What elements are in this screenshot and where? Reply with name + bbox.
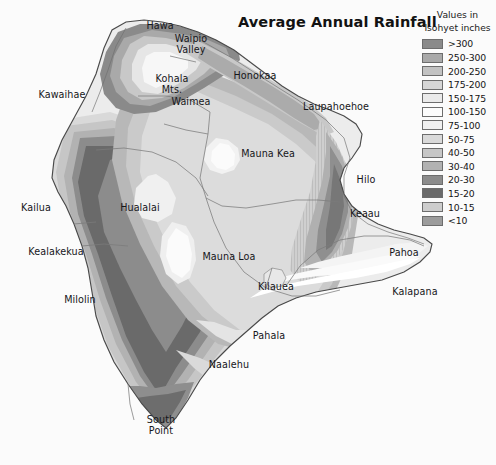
place-label-pahoa: Pahoa xyxy=(389,248,419,259)
place-label-mauna-loa: Mauna Loa xyxy=(202,252,255,263)
legend-swatch xyxy=(422,175,443,185)
legend-row: 100-150 xyxy=(419,105,496,119)
legend-swatch xyxy=(422,161,443,171)
legend-row: >300 xyxy=(419,37,496,51)
legend-swatch xyxy=(422,39,443,49)
place-label-kalapana: Kalapana xyxy=(392,287,437,298)
legend-swatch xyxy=(422,120,443,130)
place-label-line: Mts. xyxy=(156,85,189,96)
place-label-line: Honokaa xyxy=(234,71,277,82)
legend-label: 10-15 xyxy=(448,202,475,213)
legend-label: 175-200 xyxy=(448,79,486,90)
legend-swatch xyxy=(422,134,443,144)
legend-label: 50-75 xyxy=(448,134,475,145)
place-label-kawaihae: Kawaihae xyxy=(38,90,85,101)
place-label-keaau: Keaau xyxy=(350,209,380,220)
legend-swatch xyxy=(422,148,443,158)
place-label-hilo: Hilo xyxy=(357,175,376,186)
legend-title: Values in Isohyet inches xyxy=(419,8,496,34)
place-label-line: Kawaihae xyxy=(38,90,85,101)
legend-swatch xyxy=(422,188,443,198)
legend-label: 200-250 xyxy=(448,66,486,77)
legend-swatch xyxy=(422,216,443,226)
legend-row: 250-300 xyxy=(419,51,496,65)
place-label-line: Valley xyxy=(175,45,208,56)
legend-label: 20-30 xyxy=(448,174,475,185)
legend-row: 20-30 xyxy=(419,173,496,187)
legend-label: 100-150 xyxy=(448,106,486,117)
place-label-line: Milolin xyxy=(64,295,96,306)
legend-row: 40-50 xyxy=(419,146,496,160)
legend-swatch xyxy=(422,66,443,76)
rainfall-map: Average Annual Rainfall HawaWaipioValley… xyxy=(0,0,496,465)
place-label-kealakekua: Kealakekua xyxy=(28,247,83,258)
legend-label: 40-50 xyxy=(448,147,475,158)
place-label-laupahoehoe: Laupahoehoe xyxy=(303,102,369,113)
place-label-line: Hawa xyxy=(146,21,173,32)
legend-swatch xyxy=(422,53,443,63)
legend-row: 50-75 xyxy=(419,132,496,146)
legend: Values in Isohyet inches >300250-300200-… xyxy=(419,8,496,227)
place-label-south-point: SouthPoint xyxy=(147,415,175,437)
place-label-line: Point xyxy=(147,426,175,437)
place-label-honokaa: Honokaa xyxy=(234,71,277,82)
legend-row: 15-20 xyxy=(419,187,496,201)
legend-title-line-2: Isohyet inches xyxy=(419,21,496,34)
place-label-mauna-kea: Mauna Kea xyxy=(241,149,295,160)
place-label-line: Naalehu xyxy=(209,360,249,371)
place-label-waimea: Waimea xyxy=(171,97,210,108)
legend-label: >300 xyxy=(448,38,473,49)
legend-swatch xyxy=(422,93,443,103)
legend-label: <10 xyxy=(448,215,467,226)
legend-row: 10-15 xyxy=(419,200,496,214)
legend-swatch xyxy=(422,80,443,90)
legend-swatch xyxy=(422,202,443,212)
place-label-line: Waimea xyxy=(171,97,210,108)
legend-label: 150-175 xyxy=(448,93,486,104)
legend-row: <10 xyxy=(419,214,496,228)
page-title: Average Annual Rainfall xyxy=(238,14,418,30)
place-label-line: Pahala xyxy=(253,331,285,342)
place-label-line: Mauna Kea xyxy=(241,149,295,160)
legend-label: 30-40 xyxy=(448,161,475,172)
legend-title-line-1: Values in xyxy=(419,8,496,21)
place-label-line: Pahoa xyxy=(389,248,419,259)
legend-label: 250-300 xyxy=(448,52,486,63)
place-label-line: Mauna Loa xyxy=(202,252,255,263)
place-label-line: Laupahoehoe xyxy=(303,102,369,113)
place-label-kilauea: Kilauea xyxy=(258,282,294,293)
place-label-kohala-mts-: KohalaMts. xyxy=(156,74,189,96)
place-label-line: Kealakekua xyxy=(28,247,83,258)
legend-row: 175-200 xyxy=(419,78,496,92)
legend-entries: >300250-300200-250175-200150-175100-1507… xyxy=(419,37,496,227)
place-label-hualalai: Hualalai xyxy=(120,203,160,214)
place-label-line: Hilo xyxy=(357,175,376,186)
place-label-line: Kilauea xyxy=(258,282,294,293)
place-label-line: Kailua xyxy=(21,203,51,214)
place-label-pahala: Pahala xyxy=(253,331,285,342)
place-label-line: Kalapana xyxy=(392,287,437,298)
place-label-kailua: Kailua xyxy=(21,203,51,214)
place-label-milolin: Milolin xyxy=(64,295,96,306)
legend-row: 200-250 xyxy=(419,64,496,78)
place-label-waipio-valley: WaipioValley xyxy=(175,34,208,56)
place-label-naalehu: Naalehu xyxy=(209,360,249,371)
place-label-line: Keaau xyxy=(350,209,380,220)
place-label-line: Hualalai xyxy=(120,203,160,214)
place-label-hawa: Hawa xyxy=(146,21,173,32)
legend-row: 150-175 xyxy=(419,92,496,106)
legend-label: 15-20 xyxy=(448,188,475,199)
legend-label: 75-100 xyxy=(448,120,480,131)
legend-row: 75-100 xyxy=(419,119,496,133)
legend-row: 30-40 xyxy=(419,159,496,173)
legend-swatch xyxy=(422,107,443,117)
